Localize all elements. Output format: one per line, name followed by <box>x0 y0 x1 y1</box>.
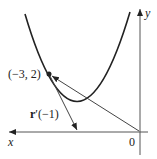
point-marker <box>47 72 52 77</box>
diagram-canvas: (−3, 2) r′(−1) x y 0 <box>0 0 157 159</box>
y-axis-label: y <box>144 6 151 20</box>
origin-label: 0 <box>129 135 135 149</box>
position-vector <box>52 76 139 131</box>
point-label: (−3, 2) <box>8 67 41 81</box>
vector-label-rest: ′(−1) <box>35 107 58 121</box>
vector-label: r′(−1) <box>30 107 59 121</box>
parabola-curve <box>25 12 130 102</box>
x-axis-label: x <box>7 135 14 149</box>
